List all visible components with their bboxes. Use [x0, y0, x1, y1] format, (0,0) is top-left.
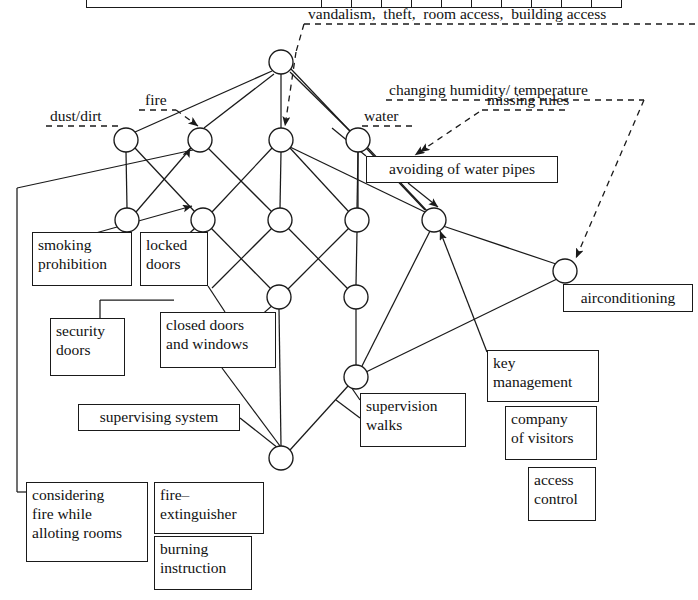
box-airconditioning[interactable]: airconditioning [563, 284, 693, 312]
box-burning-instruction[interactable]: burning instruction [154, 536, 252, 590]
box-locked-doors[interactable]: locked doors [140, 232, 208, 286]
box-company-of-visitors[interactable]: company of visitors [505, 406, 597, 460]
graph-node-n2-c[interactable] [269, 128, 293, 152]
arrow-key-management [440, 231, 487, 352]
graph-node-n3-a[interactable] [115, 208, 139, 232]
leader-vandalism-down [296, 24, 304, 52]
box-access-control[interactable]: access control [528, 467, 596, 521]
box-supervision-walks[interactable]: supervision walks [360, 393, 466, 447]
box-key-management[interactable]: key management [487, 350, 599, 402]
annotation-missing-rules: missing rules [487, 90, 569, 110]
graph-node-n3-e[interactable] [422, 208, 446, 232]
graph-node-n5[interactable] [344, 365, 368, 389]
annotation-dust-dirt: dust/dirt [50, 106, 102, 126]
graph-node-n2-d[interactable] [346, 128, 370, 152]
box-smoking-prohibition[interactable]: smoking prohibition [32, 232, 132, 286]
graph-node-n-bot[interactable] [269, 446, 293, 470]
graph-node-n2-b[interactable] [188, 128, 212, 152]
box-avoiding-water-pipes[interactable]: avoiding of water pipes [366, 156, 558, 183]
leader-arrow-humidity [576, 100, 644, 258]
annotation-vandalism: vandalism, theft, room access, building … [308, 4, 606, 24]
box-fire-extinguisher[interactable]: fire– extinguisher [154, 482, 264, 534]
box-security-doors[interactable]: security doors [50, 318, 125, 376]
diagram-canvas: vandalism, theft, room access, building … [0, 0, 698, 600]
graph-node-n4-a[interactable] [267, 285, 291, 309]
graph-node-n2-a[interactable] [114, 128, 138, 152]
graph-node-n3-d[interactable] [345, 208, 369, 232]
graph-node-n3-b[interactable] [191, 208, 215, 232]
graph-node-n-top[interactable] [269, 50, 293, 74]
graph-node-n-ac[interactable] [553, 259, 577, 283]
leader-arrow-fire [176, 110, 198, 126]
graph-node-n4-b[interactable] [344, 285, 368, 309]
annotation-fire: fire [145, 90, 167, 110]
annotation-water: water [364, 106, 398, 126]
box-considering-fire-while-alloting-rooms[interactable]: considering fire while alloting rooms [26, 482, 148, 562]
box-closed-doors-and-windows[interactable]: closed doors and windows [160, 312, 276, 368]
graph-node-n3-c[interactable] [268, 208, 292, 232]
box-supervising-system[interactable]: supervising system [78, 404, 240, 431]
